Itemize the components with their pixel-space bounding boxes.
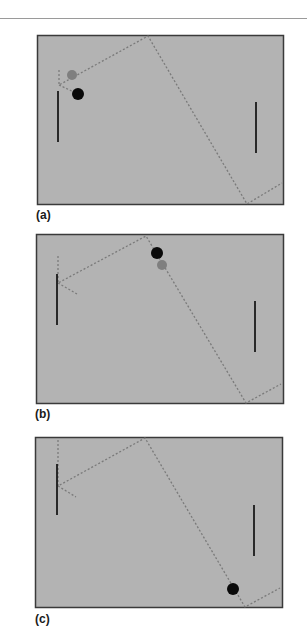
pong-trajectory-figure: (a) (b) (c) <box>0 0 307 641</box>
ghost-ball <box>157 260 167 270</box>
top-rule <box>0 18 307 19</box>
ghost-ball <box>67 70 77 80</box>
panel-c <box>36 438 283 608</box>
panel-a <box>38 36 284 205</box>
panel-b <box>37 235 284 404</box>
ball <box>151 247 163 259</box>
ball <box>72 88 84 100</box>
playfield-frame <box>37 235 284 404</box>
figure-canvas <box>0 0 307 641</box>
playfield-frame <box>36 438 283 608</box>
ball <box>227 583 239 595</box>
playfield-frame <box>38 36 284 205</box>
panel-label-c: (c) <box>35 612 50 626</box>
panel-label-a: (a) <box>36 208 51 222</box>
panel-label-b: (b) <box>35 407 50 421</box>
